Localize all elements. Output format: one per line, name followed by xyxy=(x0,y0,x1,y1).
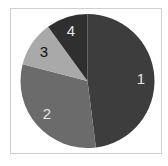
pie-slices xyxy=(21,14,155,148)
slice-label-1: 1 xyxy=(137,70,145,87)
pie-chart: 1 2 3 4 xyxy=(0,0,168,166)
slice-label-3: 3 xyxy=(40,43,48,60)
slice-label-4: 4 xyxy=(67,22,75,39)
slice-label-2: 2 xyxy=(43,105,51,122)
